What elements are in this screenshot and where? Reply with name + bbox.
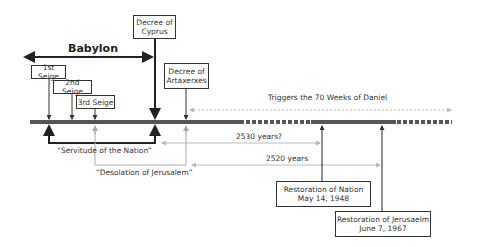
servitude-label: “Servitude of the Nation” (57, 146, 152, 155)
timeline-graphic (0, 0, 477, 247)
timeline-bar-solid-2 (311, 120, 396, 124)
desolation-label: “Desolation of Jerusalem” (96, 168, 193, 177)
event-box-decree-artaxerxes: Decree of Artaxerxes (164, 63, 209, 89)
years-2530-label: 2530 years? (236, 132, 282, 141)
event-box-second-seige: 2nd Seige (53, 80, 92, 94)
event-box-decree-cyprus: Decree of Cyprus (133, 15, 176, 39)
babylon-label: Babylon (68, 42, 118, 55)
triggers-label: Triggers the 70 Weeks of Daniel (268, 93, 387, 102)
event-box-first-seige: 1st Seige (31, 65, 66, 79)
event-box-restoration-jerusalem: Restoration of Jerusaelm June 7, 1967 (335, 211, 431, 237)
timeline-bar-solid-1 (30, 120, 240, 124)
servitude-bracket (49, 127, 155, 143)
years-2520-label: 2520 years (266, 154, 308, 163)
event-box-third-seige: 3rd Seige (76, 95, 115, 109)
event-box-restoration-nation: Restoration of Nation May 14, 1948 (276, 181, 371, 207)
